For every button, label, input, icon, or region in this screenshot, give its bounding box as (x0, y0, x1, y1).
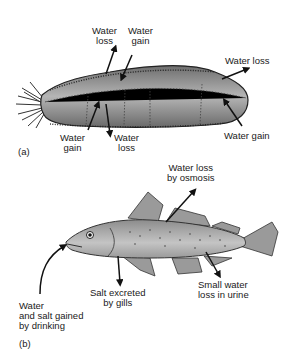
label-line: gain (60, 143, 85, 153)
label-water-loss-right: Water loss (225, 56, 270, 66)
panel-b-label: (b) (19, 338, 31, 349)
label-line: by gills (90, 298, 145, 308)
label-line: gain (128, 36, 153, 46)
label-water-gain-right: Water gain (224, 131, 270, 141)
label-line: by drinking (19, 321, 83, 331)
label-small-water-loss-urine: Small water loss in urine (198, 280, 249, 300)
label-line: by osmosis (167, 173, 215, 183)
label-water-gain-bottom-left: Water gain (60, 133, 85, 153)
label-line: loss (92, 36, 117, 46)
label-salt-excreted-gills: Salt excreted by gills (90, 288, 145, 308)
label-water-loss-bottom-mid: Water loss (114, 133, 139, 153)
label-line: loss in urine (198, 290, 249, 300)
label-water-loss-top-left: Water loss (92, 26, 117, 46)
panel-a-label: (a) (18, 146, 30, 157)
sea-cucumber-illustration (16, 66, 248, 128)
label-water-salt-drinking: Water and salt gained by drinking (19, 301, 83, 331)
fish-illustration (66, 192, 278, 276)
label-water-gain-top-mid: Water gain (128, 26, 153, 46)
label-line: loss (114, 143, 139, 153)
label-water-loss-osmosis: Water loss by osmosis (167, 163, 215, 183)
